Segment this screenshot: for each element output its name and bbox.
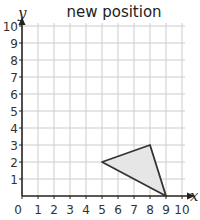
x-tick-label: 5 [98, 203, 106, 217]
x-tick-label: 4 [82, 203, 90, 217]
y-tick-label: 9 [10, 37, 18, 51]
axes [19, 17, 196, 200]
y-tick-label: 3 [10, 139, 18, 153]
x-tick-label: 0 [14, 203, 22, 217]
x-tick-label: 1 [34, 203, 42, 217]
chart-title: new position [66, 3, 161, 21]
y-tick-label: 6 [10, 88, 18, 102]
x-tick-label: 8 [146, 203, 154, 217]
y-tick-label: 2 [10, 156, 18, 170]
x-axis-label: x [190, 187, 199, 205]
x-tick-label: 7 [130, 203, 138, 217]
y-tick-label: 8 [10, 54, 18, 68]
x-tick-label: 10 [174, 203, 189, 217]
y-tick-label: 1 [10, 173, 18, 187]
y-tick-label: 7 [10, 71, 18, 85]
x-tick-label: 2 [50, 203, 58, 217]
x-tick-label: 9 [162, 203, 170, 217]
y-axis-label: y [17, 4, 27, 22]
y-tick-label: 10 [3, 20, 18, 34]
y-tick-label: 5 [10, 105, 18, 119]
grid-lines [22, 23, 185, 196]
x-tick-label: 3 [66, 203, 74, 217]
x-tick-label: 6 [114, 203, 122, 217]
coordinate-grid-chart: new position 01234567891012345678910 x y [0, 0, 200, 220]
y-tick-label: 4 [10, 122, 18, 136]
